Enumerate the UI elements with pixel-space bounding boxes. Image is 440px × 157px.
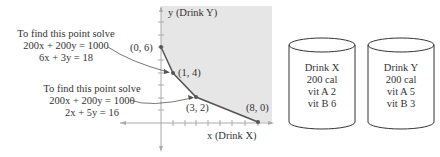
drink-vit-b: vit B 6 [289, 98, 355, 110]
drink-name: Drink Y [368, 62, 434, 74]
vertex-label-3-2: (3, 2) [186, 102, 209, 114]
drink-calories: 200 cal [289, 74, 355, 86]
note-line: To find this point solve [6, 28, 126, 40]
drink-vit-a: vit A 2 [289, 86, 355, 98]
note-equation-1: 200x + 200y = 1000 [32, 95, 152, 107]
note-line: To find this point solve [32, 83, 152, 95]
vertex-label-1-4: (1, 4) [178, 67, 201, 79]
note-equation-2: 2x + 5y = 16 [32, 107, 152, 119]
note-equation-2: 6x + 3y = 18 [6, 52, 126, 64]
y-axis-label: y (Drink Y) [168, 7, 218, 19]
note-point-1-4: To find this point solve 200x + 200y = 1… [6, 28, 126, 64]
vertex-label-0-6: (0, 6) [130, 42, 153, 54]
note-point-3-2: To find this point solve 200x + 200y = 1… [32, 83, 152, 119]
x-axis-label: x (Drink X) [207, 130, 257, 142]
note-equation-1: 200x + 200y = 1000 [6, 40, 126, 52]
drink-calories: 200 cal [368, 74, 434, 86]
drink-y-label: Drink Y 200 cal vit A 5 vit B 3 [368, 62, 434, 110]
vertex-label-8-0: (8, 0) [246, 102, 269, 114]
drink-vit-b: vit B 3 [368, 98, 434, 110]
drink-vit-a: vit A 5 [368, 86, 434, 98]
drink-x-label: Drink X 200 cal vit A 2 vit B 6 [289, 62, 355, 110]
drink-name: Drink X [289, 62, 355, 74]
